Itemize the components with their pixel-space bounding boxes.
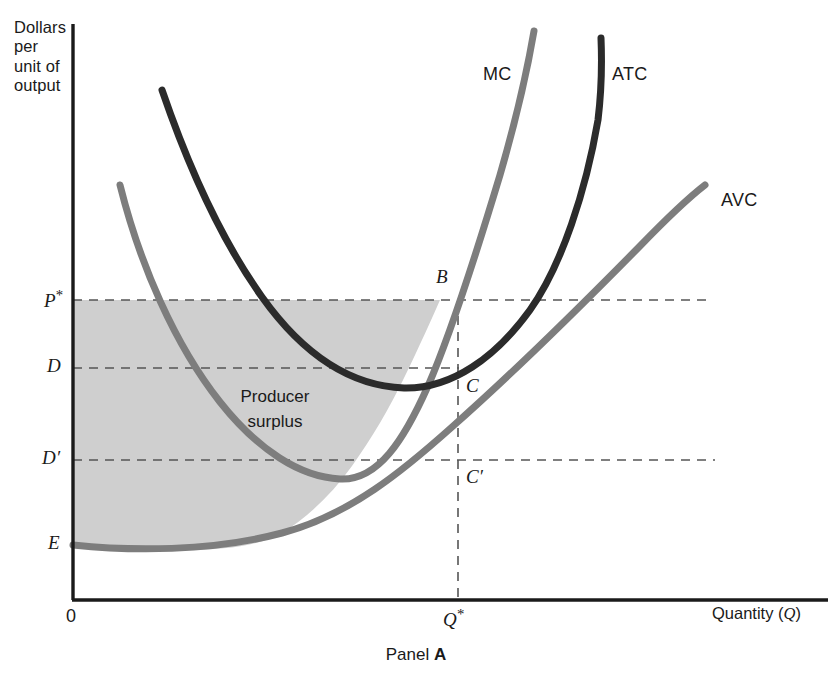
producer-surplus-label: Producer surplus [200,385,350,434]
curve-label-mc: MC [483,64,512,85]
axis-label-q-star-superscript: * [457,606,464,622]
x-axis-title-variable: Q [784,604,796,623]
point-label-c: C [466,375,479,397]
x-axis-title-close: ) [795,604,801,622]
axis-label-e: E [48,532,60,554]
axis-label-q-star: Q* [443,606,464,631]
economics-figure-panel-a: Dollars per unit of output Quantity (Q) … [0,0,832,681]
axis-label-d: D [47,355,61,377]
axis-label-d-prime: D′ [42,447,60,469]
axis-label-p-star-base: P [44,290,56,311]
curve-label-atc: ATC [612,64,648,85]
origin-label: 0 [66,606,76,627]
axis-label-p-star: P* [44,287,63,312]
y-axis-title: Dollars per unit of output [14,18,74,96]
x-axis-title-text: Quantity ( [712,604,784,622]
axis-label-p-star-superscript: * [56,287,63,303]
x-axis-title: Quantity (Q) [712,604,801,623]
axis-label-q-star-base: Q [443,609,457,630]
panel-caption: Panel A [0,645,832,665]
panel-caption-prefix: Panel [386,645,434,664]
curve-label-avc: AVC [721,190,758,211]
point-label-b: B [436,266,448,288]
panel-caption-letter: A [434,645,446,664]
point-label-c-prime: C′ [466,466,483,488]
cost-curves-plot [0,0,832,681]
